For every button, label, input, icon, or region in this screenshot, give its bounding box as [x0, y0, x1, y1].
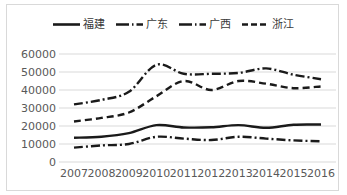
series-lines: [59, 37, 336, 167]
chart-container: 福建广东广西浙江 6000050000400003000020000100000…: [6, 4, 339, 191]
y-axis-tick-label: 30000: [8, 103, 56, 114]
legend-label: 浙江: [272, 19, 294, 30]
dash-dot-line-swatch: [116, 20, 143, 29]
legend-item[interactable]: 广西: [179, 19, 231, 30]
y-axis-tick-label: 0: [8, 157, 56, 168]
plot-area: 6000050000400003000020000100000: [7, 37, 340, 167]
series-line: [74, 137, 321, 148]
y-axis: 6000050000400003000020000100000: [7, 37, 59, 167]
x-axis: 2007200820092010201120122013201420152016: [59, 168, 336, 186]
x-axis-tick-label: 2014: [251, 168, 281, 180]
legend-label: 广西: [209, 19, 231, 30]
y-axis-tick-label: 10000: [8, 139, 56, 150]
x-axis-tick-label: 2007: [59, 168, 89, 180]
legend-item[interactable]: 福建: [53, 19, 105, 30]
x-axis-tick-label: 2013: [224, 168, 254, 180]
x-axis-tick-label: 2016: [306, 168, 336, 180]
x-axis-tick-label: 2015: [279, 168, 309, 180]
series-line: [74, 124, 321, 137]
x-axis-tick-label: 2012: [196, 168, 226, 180]
x-axis-tick-label: 2009: [114, 168, 144, 180]
x-axis-tick-label: 2008: [86, 168, 116, 180]
x-axis-tick-label: 2010: [141, 168, 171, 180]
y-axis-tick-label: 20000: [8, 121, 56, 132]
series-line: [74, 81, 321, 122]
dash-dot-line-swatch: [179, 20, 206, 29]
legend-label: 福建: [83, 19, 105, 30]
legend-label: 广东: [146, 19, 168, 30]
y-axis-tick-label: 40000: [8, 85, 56, 96]
dashed-line-swatch: [242, 20, 269, 29]
legend-item[interactable]: 广东: [116, 19, 168, 30]
solid-line-swatch: [53, 20, 80, 29]
legend-item[interactable]: 浙江: [242, 19, 294, 30]
chart-legend: 福建广东广西浙江: [7, 14, 340, 34]
y-axis-tick-label: 60000: [8, 49, 56, 60]
x-axis-tick-label: 2011: [169, 168, 199, 180]
y-axis-tick-label: 50000: [8, 67, 56, 78]
